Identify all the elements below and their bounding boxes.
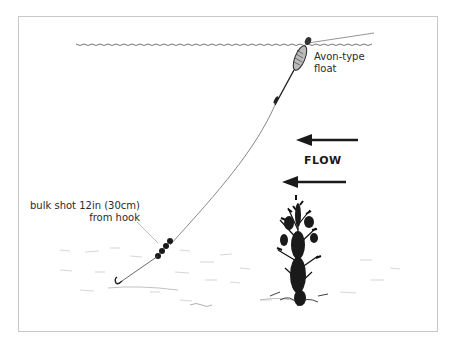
flow-arrow-bottom bbox=[282, 176, 346, 188]
water-surface bbox=[76, 44, 372, 46]
hook-icon bbox=[115, 277, 122, 284]
bulk-shot-label-line1: bulk shot 12in (30cm) bbox=[30, 200, 140, 212]
hook-link bbox=[122, 256, 158, 281]
avon-float bbox=[273, 36, 313, 105]
fishing-line bbox=[170, 105, 275, 245]
fishing-rig-illustration bbox=[0, 0, 454, 348]
rod-line bbox=[308, 33, 374, 43]
shot-pointer bbox=[137, 222, 158, 243]
flow-label: FLOW bbox=[304, 155, 342, 167]
flow-arrow-top bbox=[296, 134, 358, 146]
float-label: Avon-type float bbox=[314, 51, 365, 75]
bulk-shot-label: bulk shot 12in (30cm) from hook bbox=[30, 200, 140, 224]
float-label-line2: float bbox=[314, 63, 365, 75]
float-label-line1: Avon-type bbox=[314, 51, 365, 63]
bulk-shot-label-line2: from hook bbox=[30, 212, 140, 224]
river-bed bbox=[60, 248, 400, 307]
